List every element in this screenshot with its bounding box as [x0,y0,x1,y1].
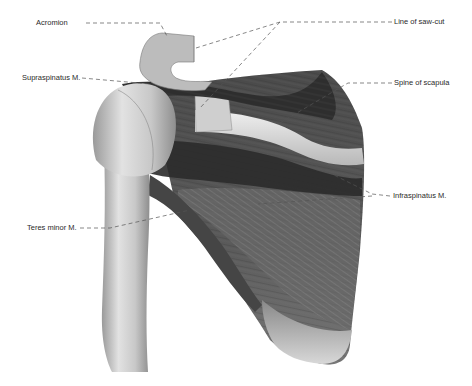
label-infraspinatus: Infraspinatus M. [393,192,446,200]
label-spine-of-scapula: Spine of scapula [394,79,449,87]
acromion [140,33,212,91]
label-line-of-saw-cut: Line of saw-cut [394,18,444,26]
label-acromion: Acromion [36,19,68,27]
anatomy-figure: Acromion Line of saw-cut Supraspinatus M… [0,0,472,386]
leader-saw-cut-a [196,22,392,48]
label-teres-minor: Teres minor M. [27,224,77,232]
humerus-shaft [102,150,150,372]
humeral-head [93,83,176,176]
label-supraspinatus: Supraspinatus M. [22,74,80,82]
leader-supraspinatus [82,78,150,84]
